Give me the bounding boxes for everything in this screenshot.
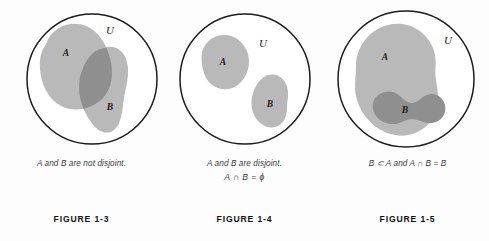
figure-caption-1-5: B ⊂ A and A ∩ B = B (326, 158, 489, 170)
set-a-label: A (381, 52, 388, 62)
figure-caption-1-3: A and B are not disjoint. (0, 158, 163, 170)
caption-line-1: A and B are not disjoint. (0, 158, 163, 170)
figure-panel-row: U A B A and B are not disjoint. FIGURE 1… (0, 0, 489, 241)
figure-panel-1-4: U A B A and B are disjoint. A ∩ B = ϕ FI… (163, 0, 326, 241)
venn-svg-disjoint: U A B (163, 0, 326, 156)
figure-panel-1-3: U A B A and B are not disjoint. FIGURE 1… (0, 0, 163, 241)
caption-line-1: A and B are disjoint. (163, 158, 326, 170)
venn-diagram-1-3: U A B (0, 0, 163, 156)
venn-svg-overlapping: U A B (0, 0, 163, 156)
set-a-label: A (219, 57, 226, 67)
figure-panel-1-5: U A B B ⊂ A and A ∩ B = B FIGURE 1-5 (326, 0, 489, 241)
venn-svg-subset: U A B (326, 0, 489, 156)
universe-label: U (259, 37, 268, 49)
universe-label: U (444, 34, 453, 46)
figure-number-1-5: FIGURE 1-5 (326, 214, 489, 224)
set-b-label: B (266, 99, 273, 109)
set-b-label: B (401, 105, 408, 115)
universe-label: U (106, 24, 115, 36)
textbook-figure-page: U A B A and B are not disjoint. FIGURE 1… (0, 0, 489, 241)
caption-line-1: B ⊂ A and A ∩ B = B (326, 158, 489, 170)
venn-diagram-1-5: U A B (326, 0, 489, 156)
set-a-label: A (62, 48, 69, 58)
venn-diagram-1-4: U A B (163, 0, 326, 156)
figure-caption-1-4: A and B are disjoint. A ∩ B = ϕ (163, 158, 326, 183)
universe-circle (180, 14, 310, 144)
figure-number-1-3: FIGURE 1-3 (0, 214, 163, 224)
set-b-label: B (106, 102, 113, 112)
figure-number-1-4: FIGURE 1-4 (163, 214, 326, 224)
caption-line-2: A ∩ B = ϕ (163, 171, 326, 183)
